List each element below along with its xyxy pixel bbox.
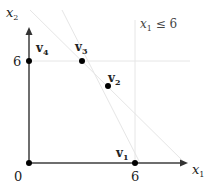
x2-axis-arrow-icon: [26, 27, 33, 35]
vertex-v1-point: [132, 160, 138, 166]
x2-axis-label: x2: [6, 6, 18, 22]
vertex-v3-label: v3: [75, 41, 88, 55]
vertex-v1-label: v1: [116, 147, 129, 161]
constraint-line-diagonal-2: [62, 10, 140, 163]
lp-feasible-region-diagram: x2 x1 0 6 6 x1 ≤ 6 v1 v2 v3 v4: [0, 0, 212, 188]
axes: [29, 32, 182, 163]
vertex-v3-point: [79, 58, 85, 64]
x1-axis-label: x1: [192, 163, 204, 179]
vertex-v2-label: v2: [108, 72, 121, 86]
diagram-svg: [0, 0, 212, 188]
x1-tick-label: 6: [131, 170, 139, 183]
origin-label: 0: [14, 170, 22, 183]
constraint-label: x1 ≤ 6: [140, 18, 177, 33]
origin-point: [26, 160, 32, 166]
vertex-v4-label: v4: [36, 42, 49, 56]
vertex-v4-point: [26, 58, 32, 64]
x1-axis-arrow-icon: [180, 160, 188, 167]
x2-tick-label: 6: [13, 55, 21, 68]
